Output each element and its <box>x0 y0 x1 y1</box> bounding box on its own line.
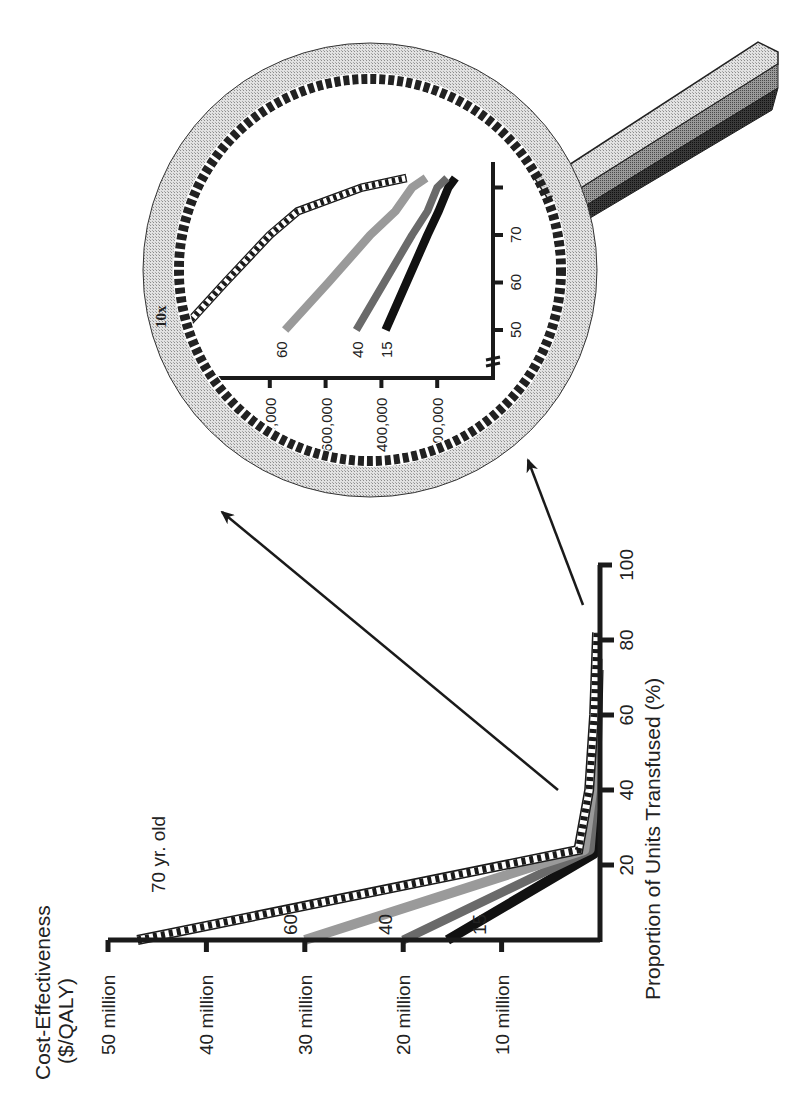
x-tick-label: 100 <box>616 549 637 581</box>
inset-x-tick-label: 50 <box>507 321 524 338</box>
arrow-to-lens-right <box>528 460 583 605</box>
zoom-arrows <box>222 460 583 790</box>
inset-x-tick-label: 70 <box>507 226 524 243</box>
magnifying-glass: 10x 200,000400,000600,000800,000 506070 … <box>143 42 778 497</box>
inset-series-label-60: 60 <box>273 341 290 358</box>
main-series-group <box>138 633 599 941</box>
magnification-label: 10x <box>153 305 169 328</box>
y-tick-label: 20 million <box>393 975 414 1055</box>
series-label-70: 70 yr. old <box>148 816 169 893</box>
series-label-40: 40 <box>375 914 396 935</box>
y-tick-label: 10 million <box>492 975 513 1055</box>
arrow-to-lens-left <box>222 512 558 790</box>
series-label-60: 60 <box>280 914 301 935</box>
y-tick-label: 50 million <box>98 975 119 1055</box>
main-chart: Cost-Effectiveness ($/QALY) Proportion o… <box>31 549 664 1080</box>
series-label-15: 15 <box>469 914 490 935</box>
y-tick-label: 30 million <box>295 975 316 1055</box>
main-x-axis: 20406080100 <box>598 549 637 942</box>
inset-series-label-40: 40 <box>349 341 366 358</box>
series-line-15 <box>447 670 598 940</box>
x-tick-label: 40 <box>616 779 637 800</box>
x-tick-label: 60 <box>616 704 637 725</box>
inset-series-label-15: 15 <box>378 341 395 358</box>
x-axis-title: Proportion of Units Transfused (%) <box>641 678 664 1000</box>
cost-effectiveness-figure: Cost-Effectiveness ($/QALY) Proportion o… <box>0 0 791 1120</box>
x-tick-label: 80 <box>616 629 637 650</box>
y-axis-title-line2: ($/QALY) <box>54 978 77 1064</box>
main-y-axis: 10 million20 million30 million40 million… <box>98 940 600 1055</box>
inset-x-tick-label: 60 <box>507 274 524 291</box>
x-tick-label: 20 <box>616 854 637 875</box>
y-tick-label: 40 million <box>196 975 217 1055</box>
inset-y-tick-label: 600,000 <box>318 398 335 452</box>
y-axis-title-line1: Cost-Effectiveness <box>31 905 54 1080</box>
inset-y-tick-label: 400,000 <box>373 398 390 452</box>
